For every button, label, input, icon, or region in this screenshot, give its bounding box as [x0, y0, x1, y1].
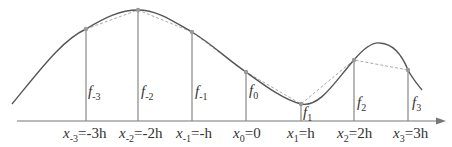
f-label-1: f1 — [303, 104, 312, 123]
x-label-0: x0=0 — [233, 125, 261, 144]
function-curve — [12, 10, 422, 104]
x-label-minus2: x-2=-2h — [119, 125, 162, 144]
x-label-minus3: x-3=-3h — [63, 125, 106, 144]
chord-polyline — [86, 10, 408, 104]
axis-arrow-icon — [436, 118, 446, 125]
node-points — [84, 8, 410, 106]
f-label-minus3: f-3 — [88, 83, 101, 102]
x-label-1: x1=h — [287, 125, 315, 144]
f-label-minus2: f-2 — [141, 83, 154, 102]
x-label-minus1: x-1=-h — [176, 125, 212, 144]
x-label-3: x3=3h — [393, 125, 428, 144]
f-label-0: f0 — [249, 82, 258, 101]
x-label-2: x2=2h — [337, 125, 372, 144]
f-label-3: f3 — [412, 94, 421, 113]
f-label-2: f2 — [357, 94, 366, 113]
f-label-minus1: f-1 — [195, 83, 208, 102]
